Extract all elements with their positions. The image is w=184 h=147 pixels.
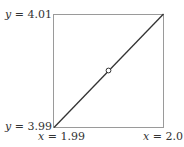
- x-left-label: x = 1.99: [38, 131, 85, 143]
- x-right-value: = 2.01: [149, 130, 184, 143]
- y-top-value: = 4.01: [11, 8, 52, 21]
- x-left-value: = 1.99: [44, 130, 85, 143]
- y-top-label: y = 4.01: [5, 9, 52, 21]
- open-circle-hole: [106, 68, 111, 73]
- x-right-label: x = 2.01: [143, 131, 184, 143]
